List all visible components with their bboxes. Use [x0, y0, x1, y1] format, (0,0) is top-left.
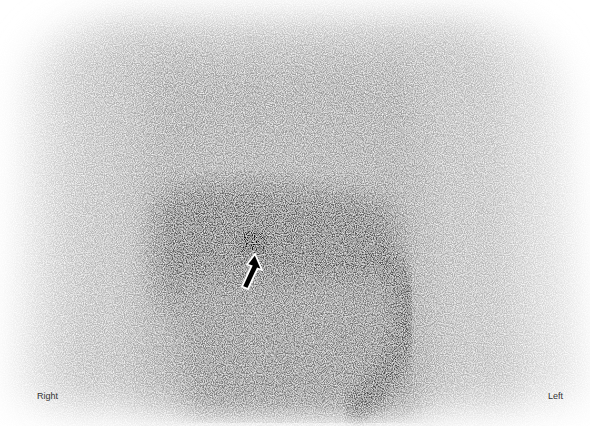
orientation-label-right: Right — [37, 391, 58, 401]
scintigraphy-image — [0, 0, 590, 426]
orientation-label-left: Left — [548, 391, 563, 401]
